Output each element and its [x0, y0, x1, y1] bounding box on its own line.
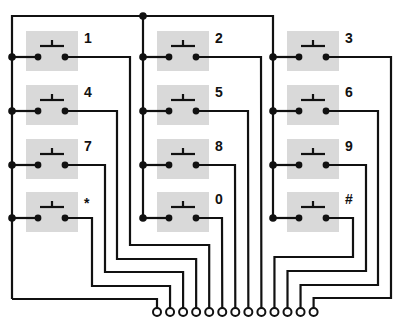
- key-label-7: 7: [84, 139, 92, 153]
- terminal-pin-3[interactable]: [192, 308, 200, 316]
- keypad-wiring-diagram: 123456789*0#: [0, 0, 398, 322]
- switch-box-9: [287, 139, 339, 179]
- bus-junction-dot: [8, 53, 16, 61]
- terminal-pin-4[interactable]: [205, 308, 213, 316]
- switch-box-#: [287, 192, 339, 232]
- switch-box-*: [26, 192, 78, 232]
- switch-contact-left: [166, 215, 173, 222]
- switch-box-7: [26, 139, 78, 179]
- switch-contact-left: [35, 54, 42, 61]
- switch-box-1: [26, 31, 78, 71]
- wiring-schematic: [0, 0, 398, 322]
- key-label-9: 9: [345, 139, 353, 153]
- terminal-pin-7[interactable]: [244, 308, 252, 316]
- key-label-8: 8: [215, 139, 223, 153]
- bus-junction-dot: [139, 214, 147, 222]
- switch-contact-left: [166, 108, 173, 115]
- key-label-6: 6: [345, 85, 353, 99]
- key-output-wire-8: [196, 165, 235, 308]
- switch-box-2: [157, 31, 209, 71]
- key-label-1: 1: [84, 31, 92, 45]
- terminal-pin-2[interactable]: [179, 308, 187, 316]
- key-output-wire-9: [288, 165, 367, 308]
- common-terminal-wire: [12, 299, 157, 308]
- switch-contact-left: [296, 54, 303, 61]
- bus-junction-dot: [269, 53, 277, 61]
- switch-contact-left: [166, 54, 173, 61]
- switch-contact-left: [35, 108, 42, 115]
- bus-junction-dot: [8, 161, 16, 169]
- terminal-pin-5[interactable]: [218, 308, 226, 316]
- switch-contact-left: [296, 215, 303, 222]
- terminal-pin-0[interactable]: [153, 308, 161, 316]
- switch-box-6: [287, 85, 339, 125]
- key-label-4: 4: [84, 85, 92, 99]
- key-label-3: 3: [345, 31, 353, 45]
- switch-box-0: [157, 192, 209, 232]
- terminal-pin-12[interactable]: [310, 308, 318, 316]
- bus-junction-dot: [139, 12, 147, 20]
- bus-junction-dot: [139, 53, 147, 61]
- bus-junction-dot: [269, 214, 277, 222]
- bus-junction-dot: [269, 107, 277, 115]
- terminal-pin-11[interactable]: [297, 308, 305, 316]
- switch-box-5: [157, 85, 209, 125]
- bus-junction-dot: [139, 107, 147, 115]
- bus-junction-dot: [8, 214, 16, 222]
- key-label-*: *: [84, 196, 89, 210]
- switch-contact-left: [166, 162, 173, 169]
- bus-junction-dot: [269, 161, 277, 169]
- terminal-pin-8[interactable]: [257, 308, 265, 316]
- switch-contact-left: [296, 108, 303, 115]
- switch-contact-left: [35, 215, 42, 222]
- terminal-pin-9[interactable]: [270, 308, 278, 316]
- switch-box-3: [287, 31, 339, 71]
- terminal-pin-1[interactable]: [166, 308, 174, 316]
- terminal-pin-10[interactable]: [284, 308, 292, 316]
- bus-junction-dot: [139, 161, 147, 169]
- key-label-2: 2: [215, 31, 223, 45]
- bus-junction-dot: [8, 107, 16, 115]
- key-label-0: 0: [215, 192, 223, 206]
- switch-box-8: [157, 139, 209, 179]
- terminal-pin-6[interactable]: [231, 308, 239, 316]
- switch-box-4: [26, 85, 78, 125]
- switch-contact-left: [35, 162, 42, 169]
- switch-contact-left: [296, 162, 303, 169]
- key-label-#: #: [345, 192, 353, 206]
- key-label-5: 5: [215, 85, 223, 99]
